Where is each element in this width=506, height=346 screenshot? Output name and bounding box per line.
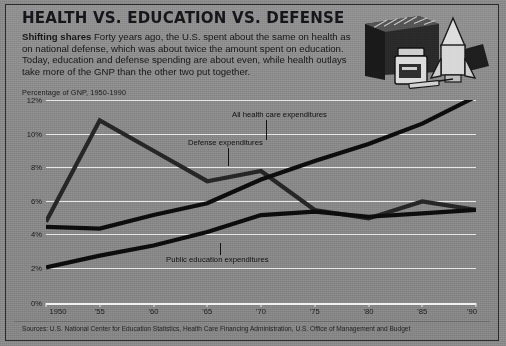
series-lines [46,100,476,304]
y-axis-labels: 12% 10% 8% 6% 4% 2% 0% [18,100,44,304]
x-tick-label: '60 [149,307,159,316]
y-tick-label: 4% [31,230,42,239]
x-tick-label: '65 [202,307,212,316]
series-label-education: Public education expenditures [166,255,269,264]
illustration [357,6,497,92]
pill-bottle-icon [395,48,427,84]
x-tick-label: '70 [256,307,266,316]
x-tick-label: '90 [467,307,477,316]
y-tick-label: 10% [27,129,42,138]
x-tick-label: '55 [95,307,105,316]
series-label-health: All health care expenditures [232,110,327,119]
infographic-page: HEALTH VS. EDUCATION VS. DEFENSE Shiftin… [0,0,506,346]
x-tick-label: '80 [364,307,374,316]
leader-line-defense [228,148,229,166]
x-tick-label: 1950 [50,307,67,316]
y-tick-label: 2% [31,263,42,272]
x-tick-label: '85 [417,307,427,316]
leader-line-health [266,120,267,140]
source-divider [14,321,490,322]
line-health-expenditures [46,100,476,229]
y-tick-label: 12% [27,96,42,105]
page-title: HEALTH VS. EDUCATION VS. DEFENSE [22,11,345,27]
line-defense-expenditures [46,120,476,222]
deck-paragraph: Shifting shares Forty years ago, the U.S… [22,31,352,77]
leader-line-education [220,243,221,255]
deck-lead: Shifting shares [22,31,91,42]
source-note: Sources: U.S. National Center for Educat… [22,325,410,332]
y-tick-label: 0% [31,299,42,308]
plot-area: All health care expenditures Defense exp… [46,100,476,304]
y-tick-label: 8% [31,163,42,172]
y-tick-label: 6% [31,196,42,205]
x-tick-label: '75 [310,307,320,316]
x-axis-labels: 1950 '55 '60 '65 '70 '75 '80 '85 '90 [46,307,476,321]
series-label-defense: Defense expenditures [188,138,263,147]
